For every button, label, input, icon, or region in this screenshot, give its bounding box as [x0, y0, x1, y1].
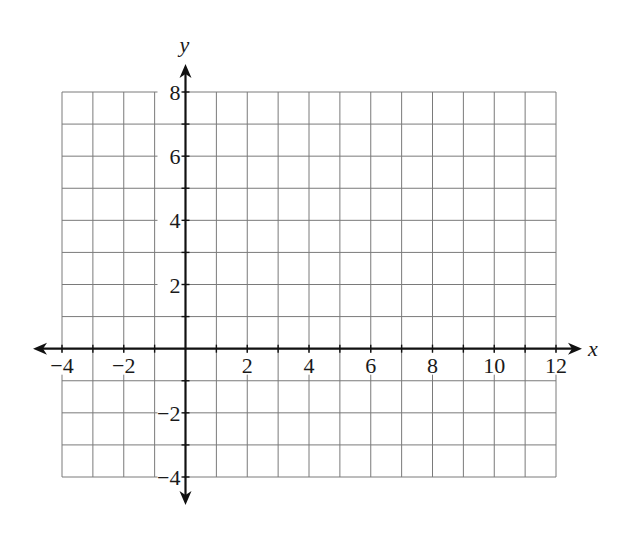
y-tick-label: 2 [170, 273, 181, 298]
grid-lines [62, 92, 556, 477]
coordinate-plane: −4−224681012 8642−2−4 x y [0, 0, 637, 534]
x-tick-label: −4 [50, 353, 73, 378]
y-tick-label: 4 [170, 208, 181, 233]
x-tick-label: 6 [365, 353, 376, 378]
x-tick-label: 4 [304, 353, 315, 378]
x-tick-label: 2 [242, 353, 253, 378]
x-tick-labels: −4−224681012 [50, 353, 567, 378]
x-tick-label: −2 [112, 353, 135, 378]
x-tick-label: 8 [427, 353, 438, 378]
y-tick-label: −4 [157, 465, 180, 490]
y-tick-label: −2 [157, 401, 180, 426]
y-tick-label: 8 [170, 80, 181, 105]
y-tick-label: 6 [170, 144, 181, 169]
y-axis-label: y [178, 32, 190, 57]
x-tick-label: 12 [545, 353, 567, 378]
x-axis-label: x [587, 336, 598, 361]
x-tick-label: 10 [483, 353, 505, 378]
